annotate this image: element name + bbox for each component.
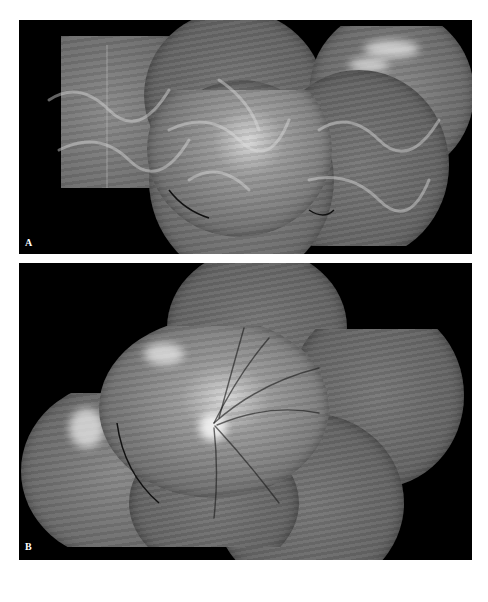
retinal-vessels bbox=[19, 263, 472, 560]
vessel-pattern bbox=[19, 20, 472, 254]
figure-panel-a: A bbox=[19, 20, 472, 254]
panel-label-b: B bbox=[25, 541, 32, 552]
figure-panel-b: B bbox=[19, 263, 472, 560]
panel-label-a: A bbox=[25, 237, 32, 248]
